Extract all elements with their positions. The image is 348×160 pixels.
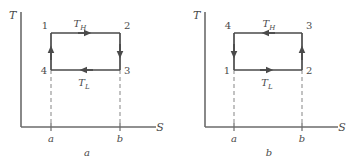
state-point-1-panel-a: 1 xyxy=(42,20,48,31)
state-point-3-panel-a: 3 xyxy=(124,65,130,76)
x-axis-label-b: S xyxy=(338,121,346,134)
panel-b: T S a b 4 3 2 1 TH TL b xyxy=(174,0,348,160)
state-point-1-panel-b: 1 xyxy=(224,65,230,76)
process-label-tl-panel-a: TL xyxy=(78,77,90,91)
th-subscript-panel-b: H xyxy=(268,24,276,32)
figure-pair: T S a b 1 2 3 4 TH TL a xyxy=(0,0,348,160)
process-label-th-panel-b: TH xyxy=(263,18,277,32)
panel-caption-b: b xyxy=(266,147,272,158)
tick-label-a-panel-b: a xyxy=(231,133,237,144)
process-label-th-panel-a: TH xyxy=(74,18,88,32)
panel-a: T S a b 1 2 3 4 TH TL a xyxy=(0,0,174,160)
state-point-4-panel-b: 4 xyxy=(225,20,231,31)
state-point-4-panel-a: 4 xyxy=(41,65,47,76)
tl-subscript-panel-a: L xyxy=(84,83,90,91)
state-point-2-panel-b: 2 xyxy=(306,65,312,76)
tick-label-a-panel-a: a xyxy=(48,133,54,144)
panel-caption-a: a xyxy=(84,147,90,158)
state-point-2-panel-a: 2 xyxy=(124,20,130,31)
tick-label-b-panel-a: b xyxy=(117,133,123,144)
tick-label-b-panel-b: b xyxy=(299,133,305,144)
tl-subscript-panel-b: L xyxy=(267,83,273,91)
x-axis-label-a: S xyxy=(156,121,164,134)
process-label-tl-panel-b: TL xyxy=(261,77,273,91)
state-point-3-panel-b: 3 xyxy=(306,20,312,31)
y-axis-label-a: T xyxy=(9,9,18,22)
y-axis-label-b: T xyxy=(193,9,202,22)
th-subscript-panel-a: H xyxy=(79,24,87,32)
